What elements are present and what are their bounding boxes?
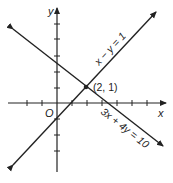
y-axis-label: y [47,5,55,17]
origin-label: O [45,107,54,119]
coordinate-plane: y x O (2, 1) x − y = 1 3x + 4y = 10 [0,0,173,183]
intersection-point [84,85,89,90]
point-label: (2, 1) [93,81,118,93]
line2-label: 3x + 4y = 10 [99,105,152,150]
x-axis-label: x [157,107,164,119]
